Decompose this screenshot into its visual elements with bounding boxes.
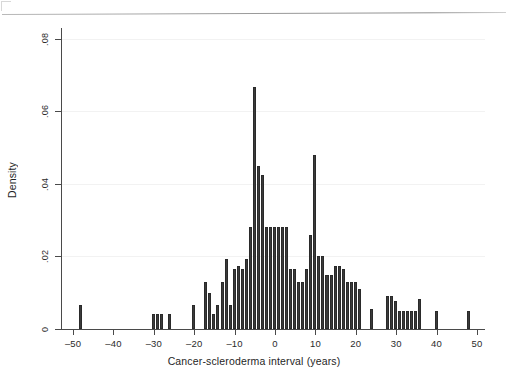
x-tick-label-4: –10 (220, 338, 250, 349)
histogram-bar (152, 314, 155, 329)
histogram-bar (241, 269, 244, 329)
histogram-bar (313, 155, 316, 329)
histogram-bar (229, 305, 232, 329)
y-tick-label-0: 0 (38, 318, 52, 340)
histogram-bar (350, 282, 353, 329)
x-tick-label-9: 40 (422, 338, 452, 349)
x-tick-4 (235, 329, 236, 335)
histogram-bar (354, 282, 357, 329)
x-tick-label-5: 0 (260, 338, 290, 349)
x-tick-8 (396, 329, 397, 335)
histogram-bar (325, 275, 328, 329)
histogram-bar (273, 227, 276, 329)
histogram-bar (160, 314, 163, 329)
y-tick-label-4: .08 (38, 28, 52, 50)
y-axis-title: Density (6, 162, 18, 198)
histogram-bar (297, 282, 300, 329)
histogram-bar (346, 282, 349, 329)
histogram-bar (277, 227, 280, 329)
x-axis-title: Cancer-scleroderma interval (years) (0, 355, 508, 367)
y-tick-label-3: .06 (38, 100, 52, 122)
histogram-bar (285, 227, 288, 329)
histogram-bar (261, 175, 264, 329)
histogram-bar (321, 256, 324, 329)
histogram-bars (61, 28, 485, 329)
histogram-bar (221, 282, 224, 329)
x-tick-5 (275, 329, 276, 335)
x-tick-label-1: –40 (98, 338, 128, 349)
x-tick-10 (477, 329, 478, 335)
histogram-bar (402, 311, 405, 329)
histogram-figure: 0.02.04.06.08 –50–40–30–20–1001020304050… (0, 0, 508, 385)
histogram-bar (249, 227, 252, 329)
histogram-bar (79, 305, 82, 329)
histogram-bar (342, 269, 345, 329)
y-tick-label-1: .02 (38, 245, 52, 267)
histogram-bar (317, 256, 320, 329)
histogram-bar (212, 314, 215, 329)
histogram-bar (301, 282, 304, 329)
x-tick-label-2: –30 (139, 338, 169, 349)
x-tick-label-0: –50 (58, 338, 88, 349)
histogram-bar (305, 269, 308, 329)
histogram-bar (289, 269, 292, 329)
x-tick-label-10: 50 (462, 338, 492, 349)
histogram-bar (398, 311, 401, 329)
histogram-bar (253, 87, 256, 329)
histogram-bar (358, 289, 361, 329)
histogram-bar (390, 296, 393, 329)
histogram-bar (334, 266, 337, 329)
x-tick-0 (73, 329, 74, 335)
x-tick-7 (356, 329, 357, 335)
histogram-bar (265, 227, 268, 329)
histogram-bar (410, 311, 413, 329)
histogram-bar (386, 296, 389, 329)
histogram-bar (237, 266, 240, 329)
histogram-bar (245, 259, 248, 329)
histogram-bar (233, 269, 236, 329)
x-tick-label-6: 10 (300, 338, 330, 349)
histogram-bar (269, 227, 272, 329)
histogram-bar (225, 259, 228, 329)
y-tick-0 (55, 329, 61, 330)
histogram-bar (293, 269, 296, 329)
scan-corner-artifact (1, 1, 11, 11)
x-tick-label-8: 30 (381, 338, 411, 349)
histogram-bar (330, 275, 333, 329)
histogram-bar (406, 311, 409, 329)
histogram-bar (204, 282, 207, 329)
histogram-bar (418, 299, 421, 329)
histogram-bar (309, 235, 312, 329)
histogram-bar (216, 305, 219, 329)
histogram-bar (168, 314, 171, 329)
x-tick-1 (113, 329, 114, 335)
x-axis-line (61, 329, 485, 330)
y-tick-label-2: .04 (38, 173, 52, 195)
histogram-bar (281, 227, 284, 329)
x-tick-9 (437, 329, 438, 335)
histogram-bar (208, 293, 211, 329)
histogram-bar (435, 311, 438, 329)
x-tick-3 (194, 329, 195, 335)
x-tick-2 (154, 329, 155, 335)
histogram-bar (467, 311, 470, 329)
histogram-bar (156, 314, 159, 329)
histogram-bar (192, 305, 195, 329)
histogram-bar (257, 166, 260, 329)
histogram-bar (338, 266, 341, 329)
scan-top-rule-artifact (2, 12, 506, 15)
x-tick-6 (315, 329, 316, 335)
x-tick-label-7: 20 (341, 338, 371, 349)
histogram-bar (370, 309, 373, 329)
x-tick-label-3: –20 (179, 338, 209, 349)
histogram-bar (394, 301, 397, 329)
histogram-bar (414, 311, 417, 329)
